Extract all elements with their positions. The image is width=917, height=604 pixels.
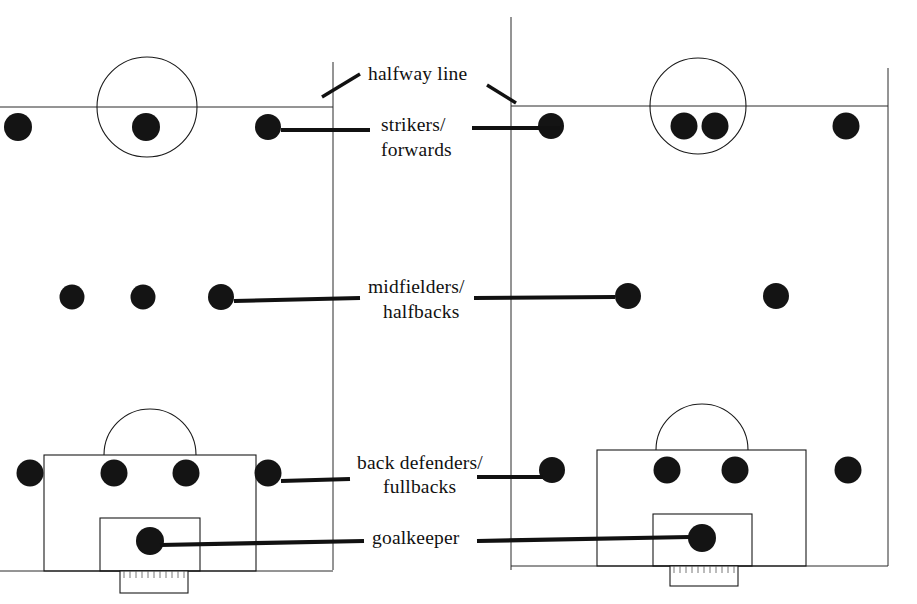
player-dot-goalkeeper xyxy=(136,527,164,555)
player-dot xyxy=(671,113,698,140)
leader-midfielders-left xyxy=(234,298,360,301)
player-dot xyxy=(615,283,641,309)
left-pitch xyxy=(0,57,333,593)
player-dot xyxy=(702,113,729,140)
player-dot xyxy=(17,460,44,487)
pitch-svg: halfway line strikers/ forwards midfield… xyxy=(0,0,917,604)
left-penalty-arc xyxy=(104,409,196,455)
player-dot xyxy=(101,460,128,487)
player-dot xyxy=(173,460,200,487)
label-defenders-line1: back defenders/ xyxy=(357,452,483,473)
player-dot xyxy=(132,113,160,141)
player-dot xyxy=(131,285,156,310)
leader-goalkeeper-right xyxy=(477,537,690,541)
leader-halfway-right xyxy=(487,85,516,103)
annotation-labels: halfway line strikers/ forwards midfield… xyxy=(357,63,483,548)
label-defenders-line2: fullbacks xyxy=(383,476,456,497)
label-strikers-line1: strikers/ xyxy=(381,114,446,135)
player-dot-goalkeeper xyxy=(688,524,716,552)
player-dot xyxy=(255,114,281,140)
player-dot xyxy=(835,457,862,484)
player-dot xyxy=(4,113,32,141)
player-dot xyxy=(722,457,749,484)
leader-midfielders-right xyxy=(474,297,615,298)
player-dot xyxy=(763,283,789,309)
player-dot xyxy=(833,113,860,140)
player-dot xyxy=(60,285,85,310)
right-penalty-arc xyxy=(656,404,748,450)
player-dot xyxy=(208,284,234,310)
right-pitch xyxy=(511,17,888,586)
player-dot xyxy=(255,460,282,487)
label-midfielders-line1: midfielders/ xyxy=(368,276,465,297)
leader-halfway-left xyxy=(322,74,360,97)
label-midfielders-line2: halfbacks xyxy=(383,301,460,322)
label-halfway-line: halfway line xyxy=(368,63,467,84)
player-dot xyxy=(654,457,681,484)
soccer-positions-diagram: halfway line strikers/ forwards midfield… xyxy=(0,0,917,604)
label-goalkeeper: goalkeeper xyxy=(372,527,460,548)
leader-defenders-left xyxy=(281,479,350,481)
label-strikers-line2: forwards xyxy=(381,139,452,160)
